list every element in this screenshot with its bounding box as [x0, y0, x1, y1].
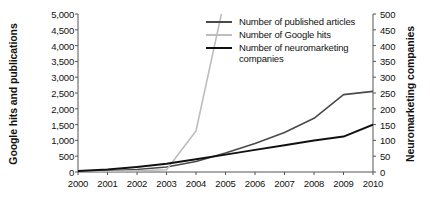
legend-item: Number of Google hits [206, 29, 378, 40]
chart-container: Google hits and publications Neuromarket… [0, 0, 430, 201]
legend-swatch-line-icon [206, 47, 232, 49]
legend-item: Number of neuromarketing companies [206, 42, 378, 64]
legend-swatch-line-icon [206, 21, 232, 23]
series-line [78, 125, 373, 171]
legend-swatch-line-icon [206, 34, 232, 36]
legend-item: Number of published articles [206, 16, 378, 27]
chart-legend: Number of published articlesNumber of Go… [206, 16, 378, 66]
legend-label: Number of neuromarketing companies [239, 42, 378, 64]
series-line [78, 91, 373, 171]
legend-label: Number of published articles [239, 16, 355, 27]
series-line [78, 0, 226, 172]
legend-label: Number of Google hits [239, 29, 331, 40]
